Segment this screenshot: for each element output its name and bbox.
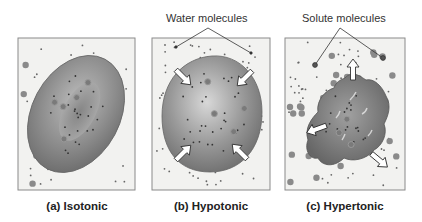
caption-isotonic: (a) Isotonic bbox=[12, 200, 142, 212]
water-molecule bbox=[231, 77, 233, 79]
water-molecule bbox=[220, 128, 222, 130]
solute-molecule bbox=[61, 136, 67, 142]
water-molecule bbox=[69, 134, 71, 136]
water-molecule bbox=[294, 92, 296, 94]
water-molecule bbox=[344, 111, 346, 113]
water-molecule bbox=[200, 82, 202, 84]
water-molecule bbox=[298, 92, 300, 94]
water-molecule bbox=[382, 184, 384, 186]
caption-hypertonic: (c) Hypertonic bbox=[280, 200, 410, 212]
water-molecule bbox=[352, 173, 354, 175]
water-molecule bbox=[115, 181, 117, 183]
water-molecule bbox=[78, 143, 80, 145]
water-molecule bbox=[209, 49, 211, 51]
water-molecule bbox=[381, 148, 383, 150]
water-molecule bbox=[162, 148, 164, 150]
water-molecule bbox=[75, 141, 77, 143]
water-molecule bbox=[396, 167, 398, 169]
caption-hypotonic: (b) Hypotonic bbox=[146, 200, 276, 212]
water-molecule bbox=[102, 105, 104, 107]
water-molecule bbox=[348, 102, 350, 104]
water-molecule bbox=[347, 126, 349, 128]
water-molecule bbox=[53, 95, 55, 97]
water-molecule bbox=[364, 137, 366, 139]
water-molecule bbox=[122, 165, 124, 167]
water-molecule bbox=[77, 130, 79, 132]
water-molecule bbox=[164, 51, 166, 53]
water-molecule bbox=[290, 76, 292, 78]
water-molecule bbox=[248, 62, 250, 64]
water-molecule bbox=[70, 54, 72, 56]
water-molecule bbox=[164, 168, 166, 170]
water-molecule bbox=[182, 96, 184, 98]
panel-hypertonic bbox=[285, 38, 405, 190]
water-molecule bbox=[67, 104, 69, 106]
water-molecule bbox=[164, 44, 166, 46]
solute-molecule bbox=[241, 105, 247, 111]
water-molecule bbox=[76, 113, 78, 115]
water-molecule bbox=[125, 68, 127, 70]
water-molecule bbox=[30, 168, 32, 170]
water-molecule bbox=[191, 45, 193, 47]
water-molecule bbox=[74, 108, 76, 110]
water-molecule bbox=[168, 171, 170, 173]
water-molecule bbox=[199, 141, 201, 143]
water-molecule bbox=[205, 96, 207, 98]
water-molecule bbox=[74, 110, 76, 112]
water-molecule bbox=[92, 129, 94, 131]
water-molecule bbox=[335, 95, 337, 97]
water-molecule bbox=[330, 174, 332, 176]
water-molecule bbox=[288, 111, 290, 113]
water-molecule bbox=[50, 112, 52, 114]
water-molecule bbox=[68, 93, 70, 95]
solute-molecule bbox=[348, 142, 354, 148]
water-molecule bbox=[242, 61, 244, 63]
water-molecule bbox=[190, 44, 192, 46]
solute-molecule bbox=[74, 95, 80, 101]
water-molecule bbox=[87, 115, 89, 117]
water-molecule bbox=[261, 129, 263, 131]
water-molecule bbox=[350, 104, 352, 106]
water-molecule bbox=[325, 131, 327, 133]
water-molecule bbox=[343, 55, 345, 57]
water-molecule bbox=[96, 119, 98, 121]
water-molecule bbox=[234, 96, 236, 98]
water-molecule bbox=[79, 114, 81, 116]
water-molecule bbox=[242, 173, 244, 175]
water-molecule bbox=[93, 91, 95, 93]
solute-molecule bbox=[289, 151, 295, 157]
water-molecule bbox=[307, 42, 309, 44]
solute-molecule bbox=[386, 138, 392, 144]
water-molecule bbox=[362, 139, 364, 141]
water-molecule bbox=[156, 150, 158, 152]
water-molecule bbox=[77, 117, 79, 119]
water-molecule bbox=[82, 45, 84, 47]
solute-molecule bbox=[297, 103, 303, 109]
water-molecule bbox=[339, 42, 341, 44]
water-molecule bbox=[228, 80, 230, 82]
solute-molecule bbox=[344, 116, 350, 122]
water-molecule bbox=[357, 55, 359, 57]
water-molecule bbox=[305, 88, 307, 90]
water-molecule bbox=[204, 52, 206, 54]
solute-molecules-label: Solute molecules bbox=[302, 12, 386, 24]
water-molecule bbox=[206, 184, 208, 186]
water-molecule bbox=[238, 92, 240, 94]
water-molecule bbox=[223, 119, 225, 121]
water-molecule bbox=[249, 45, 251, 47]
water-molecule bbox=[349, 49, 351, 51]
water-molecule bbox=[254, 56, 256, 58]
water-molecule bbox=[192, 175, 194, 177]
water-molecule bbox=[26, 100, 28, 102]
water-molecule bbox=[65, 149, 67, 151]
solute-molecule bbox=[393, 153, 399, 159]
water-molecule bbox=[203, 73, 205, 75]
solute-molecule bbox=[287, 179, 293, 185]
solute-molecule bbox=[52, 99, 58, 105]
solute-molecule bbox=[336, 130, 342, 136]
water-molecule bbox=[201, 101, 203, 103]
solute-molecule bbox=[337, 163, 343, 169]
water-molecule bbox=[30, 174, 32, 176]
water-molecule bbox=[207, 144, 209, 146]
water-molecule bbox=[173, 41, 175, 43]
